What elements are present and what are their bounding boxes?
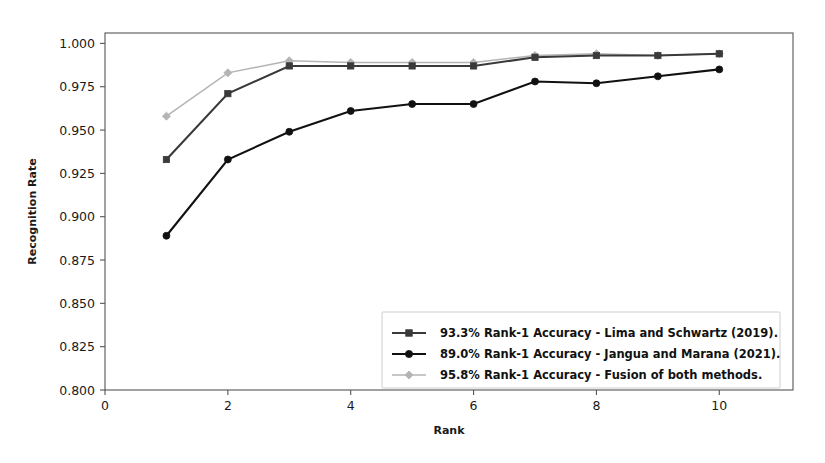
series-1-marker-rank-2 [225,91,231,97]
series-2-group [163,66,723,239]
series-2-marker-rank-8 [593,80,600,87]
series-1-marker-rank-10 [716,51,722,57]
legend-label-3: 95.8% Rank-1 Accuracy - Fusion of both m… [440,368,762,382]
series-2-marker-rank-2 [224,156,231,163]
x-tick-label-2: 2 [224,398,232,413]
series-2-marker-rank-10 [716,66,723,73]
x-tick-label-4: 4 [347,398,355,413]
series-2-line [166,69,719,235]
y-tick-label-0.850: 0.850 [59,296,95,311]
series-1-marker-rank-7 [532,54,538,60]
y-axis-title: Recognition Rate [26,158,39,264]
series-1-marker-rank-4 [348,63,354,69]
legend-item-3[interactable]: 95.8% Rank-1 Accuracy - Fusion of both m… [392,368,762,382]
series-2-marker-rank-6 [470,101,477,108]
series-2-marker-rank-9 [654,73,661,80]
x-tick-label-6: 6 [470,398,478,413]
legend-item-2[interactable]: 89.0% Rank-1 Accuracy - Jangua and Maran… [392,347,780,361]
y-tick-label-0.825: 0.825 [59,339,95,354]
series-2-marker-rank-3 [286,128,293,135]
series-1-line [166,54,719,160]
x-tick-label-8: 8 [592,398,600,413]
legend-item-1[interactable]: 93.3% Rank-1 Accuracy - Lima and Schwart… [392,326,778,340]
series-2-marker-rank-4 [347,108,354,115]
series-1-marker-rank-3 [286,63,292,69]
y-tick-label-0.900: 0.900 [59,209,95,224]
series-1-marker-rank-5 [409,63,415,69]
y-tick-label-0.925: 0.925 [59,166,95,181]
y-tick-label-0.975: 0.975 [59,79,95,94]
y-tick-label-0.950: 0.950 [59,123,95,138]
x-tick-label-0: 0 [101,398,109,413]
series-1-marker-rank-1 [163,156,169,162]
chart-canvas: 02468100.8000.8250.8500.8750.9000.9250.9… [0,0,825,463]
series-1-group [163,51,722,163]
y-tick-label-1.000: 1.000 [59,36,95,51]
series-1-marker-rank-8 [593,52,599,58]
x-tick-label-10: 10 [711,398,727,413]
recognition-rate-cmc-chart: 02468100.8000.8250.8500.8750.9000.9250.9… [0,0,825,463]
legend-swatch-2-marker-rank-0 [405,350,412,357]
x-axis-title: Rank [433,424,465,437]
series-2-marker-rank-5 [409,101,416,108]
legend-swatch-1-marker-rank-0 [406,330,412,336]
legend-label-2: 89.0% Rank-1 Accuracy - Jangua and Maran… [440,347,780,361]
legend-label-1: 93.3% Rank-1 Accuracy - Lima and Schwart… [440,326,778,340]
series-1-marker-rank-9 [655,52,661,58]
series-2-marker-rank-1 [163,232,170,239]
y-tick-label-0.800: 0.800 [59,383,95,398]
y-tick-label-0.875: 0.875 [59,253,95,268]
series-1-marker-rank-6 [470,63,476,69]
series-2-marker-rank-7 [532,78,539,85]
